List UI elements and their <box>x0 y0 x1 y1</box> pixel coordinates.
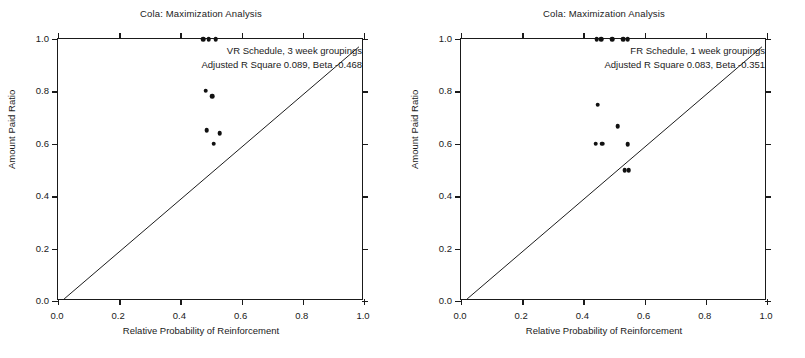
panel-title: Cola: Maximization Analysis <box>403 8 805 19</box>
x-tick-label: 0.6 <box>234 310 247 321</box>
data-point <box>615 124 620 129</box>
x-tick <box>303 299 304 305</box>
plot-area <box>460 38 766 300</box>
x-tick-label: 0.2 <box>515 310 528 321</box>
y-tick-label: 0.6 <box>18 137 49 148</box>
annotation-stats-line: Adjusted R Square 0.089, Beta -0.468 <box>201 58 362 72</box>
data-point <box>204 88 209 93</box>
plot-area <box>57 38 363 300</box>
y-tick-label: 0.0 <box>421 295 452 306</box>
y-tick-label: 0.6 <box>421 137 452 148</box>
x-axis-title: Relative Probability of Reinforcement <box>0 325 402 336</box>
y-tick-label: 0.4 <box>421 190 452 201</box>
data-point <box>213 37 218 42</box>
chart-panel-left: Cola: Maximization Analysis Amount Paid … <box>0 0 402 358</box>
y-axis-title: Amount Paid Ratio <box>409 90 420 169</box>
data-point <box>595 102 600 107</box>
chart-panel-right: Cola: Maximization Analysis Amount Paid … <box>403 0 805 358</box>
y-axis-title: Amount Paid Ratio <box>6 90 17 169</box>
x-tick <box>180 299 181 305</box>
y-tick-label: 0.8 <box>421 85 452 96</box>
identity-reference-line <box>461 39 765 299</box>
y-tick-label: 1.0 <box>421 33 452 44</box>
data-point <box>201 37 206 42</box>
x-axis-title: Relative Probability of Reinforcement <box>403 325 805 336</box>
x-tick-label: 0.4 <box>576 310 589 321</box>
x-tick <box>583 299 584 305</box>
y-tick-label: 0.8 <box>18 85 49 96</box>
y-tick-label: 0.2 <box>18 242 49 253</box>
data-point <box>610 37 615 42</box>
x-tick <box>58 299 59 305</box>
x-tick <box>706 299 707 305</box>
x-tick <box>645 299 646 305</box>
x-tick <box>522 299 523 305</box>
x-tick <box>461 299 462 305</box>
x-tick <box>119 299 120 305</box>
data-point <box>206 37 211 42</box>
x-tick-label: 0.0 <box>50 310 63 321</box>
data-point <box>217 131 222 136</box>
y-tick-right <box>362 39 368 40</box>
data-point <box>600 142 605 147</box>
y-tick-right <box>765 39 771 40</box>
y-tick-right <box>362 91 368 92</box>
y-tick-right <box>362 301 368 302</box>
data-point <box>593 142 598 147</box>
data-point <box>626 168 631 173</box>
annotation-schedule-line: FR Schedule, 1 week groupings <box>604 44 765 58</box>
data-point <box>210 94 215 99</box>
x-tick-label: 0.0 <box>453 310 466 321</box>
y-tick-right <box>362 144 368 145</box>
annotation-schedule-line: VR Schedule, 3 week groupings <box>201 44 362 58</box>
x-tick-label: 0.8 <box>698 310 711 321</box>
data-point <box>211 142 216 147</box>
x-tick-label: 1.0 <box>356 310 369 321</box>
y-tick-right <box>765 91 771 92</box>
panel-title: Cola: Maximization Analysis <box>0 8 402 19</box>
x-tick-label: 0.2 <box>112 310 125 321</box>
y-tick-right <box>362 249 368 250</box>
data-point <box>599 37 604 42</box>
data-point <box>625 142 630 147</box>
y-tick <box>455 301 461 302</box>
figure-sheet: Cola: Maximization Analysis Amount Paid … <box>0 0 805 358</box>
y-tick-label: 1.0 <box>18 33 49 44</box>
y-tick-right <box>765 249 771 250</box>
data-point <box>204 128 209 133</box>
x-tick-label: 1.0 <box>759 310 772 321</box>
y-tick-label: 0.4 <box>18 190 49 201</box>
y-tick <box>52 301 58 302</box>
x-tick-label: 0.6 <box>637 310 650 321</box>
y-tick-right <box>765 301 771 302</box>
y-tick-label: 0.0 <box>18 295 49 306</box>
stats-annotation: FR Schedule, 1 week groupings Adjusted R… <box>604 44 765 71</box>
x-tick-label: 0.8 <box>295 310 308 321</box>
data-point <box>625 37 630 42</box>
x-tick <box>242 299 243 305</box>
stats-annotation: VR Schedule, 3 week groupings Adjusted R… <box>201 44 362 71</box>
x-tick-label: 0.4 <box>173 310 186 321</box>
y-tick-right <box>362 196 368 197</box>
y-tick-label: 0.2 <box>421 242 452 253</box>
identity-reference-line <box>58 39 362 299</box>
y-tick-right <box>765 144 771 145</box>
annotation-stats-line: Adjusted R Square 0.083, Beta -0.351 <box>604 58 765 72</box>
y-tick-right <box>765 196 771 197</box>
